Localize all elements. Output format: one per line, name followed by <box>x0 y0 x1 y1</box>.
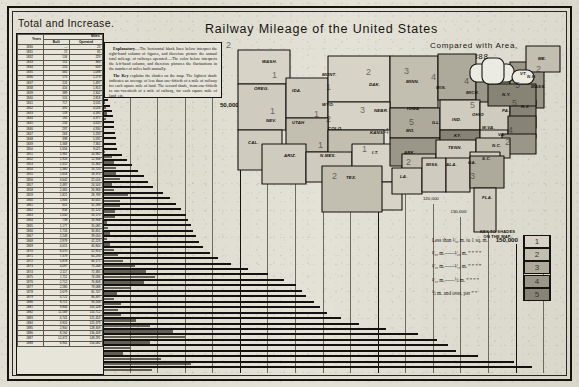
bar-miles-operated <box>102 241 199 243</box>
bar-miles-built <box>102 330 173 332</box>
gridline <box>212 96 213 374</box>
map-state-label: IND. <box>452 117 461 122</box>
map-state-shade-number: 2 <box>332 171 337 181</box>
table-body: 1830—23183172951832134229183315138018342… <box>18 45 103 346</box>
table-cell-built: 6,941 <box>43 341 69 346</box>
map-state-label: LA. <box>400 174 408 179</box>
map-state-shade-number: 4 <box>384 126 389 136</box>
bar-miles-built <box>102 336 185 338</box>
map-state-shape <box>238 50 290 84</box>
bar-miles-operated <box>102 290 302 292</box>
map-state-label: N.MEX. <box>320 153 336 158</box>
atlas-plate: Railway Mileage of the United States Com… <box>0 0 579 387</box>
map-state-label: NEBR. <box>374 108 388 113</box>
bar-miles-operated <box>102 306 320 308</box>
map-state-shade-number: 1 <box>318 140 323 150</box>
key-row-label: ¹⁄₅₀ m.——¹⁄₂₀ m. ” ” ” ” <box>432 250 522 256</box>
bar-miles-built <box>102 292 117 294</box>
bar-miles-built <box>102 314 121 316</box>
map-state-label: ME. <box>538 56 546 61</box>
table-cell-operated: 156,082 <box>69 341 102 346</box>
map-state-label: CAL. <box>248 140 259 145</box>
map-state-label: IOWA <box>407 106 419 111</box>
map-state-label: PA. <box>502 108 509 113</box>
map-state-label: N.H. <box>527 74 536 79</box>
bar-miles-operated <box>102 295 306 297</box>
bar-miles-operated <box>102 246 203 248</box>
map-state-shade-number: 3 <box>404 66 409 76</box>
map-state-shade-number: 2 <box>505 137 510 147</box>
mileage-table: Years Miles. Built Operated 1830—2318317… <box>16 33 104 375</box>
map-state-label: WYO. <box>322 102 334 107</box>
us-choropleth-map: WASH.1OREG.IDA.MONT.1DAK.2MINN.3WIS.4MIC… <box>226 40 564 245</box>
bar-miles-operated <box>102 350 456 352</box>
map-state-shade-number: 3 <box>470 171 475 181</box>
bar-miles-built <box>102 287 131 289</box>
bar-miles-built <box>102 194 128 196</box>
map-state-shape <box>328 56 390 102</box>
map-state-shape <box>262 144 306 184</box>
bar-miles-built <box>102 260 123 262</box>
bar-miles-built <box>102 341 150 343</box>
bar-miles-built <box>102 352 123 354</box>
explanatory-paragraph-1: Explanatory.—The horizontal black lines … <box>109 46 217 71</box>
bar-miles-operated <box>102 224 191 226</box>
map-state-label: NEV. <box>266 118 276 123</box>
map-state-label: COLO. <box>328 126 343 131</box>
map-state-shade-number: 1 <box>272 70 277 80</box>
map-state-shade-number: 4 <box>464 76 469 86</box>
map-state-label: UTAH <box>292 120 304 125</box>
map-state-shade-number: 2 <box>226 40 231 50</box>
map-state-label: MASS. <box>531 84 546 89</box>
key-row-label: ½ m. and over, per ” ” <box>432 290 522 296</box>
table-head: Years Miles. Built Operated <box>18 35 103 45</box>
bar-miles-built <box>102 205 120 207</box>
map-state-label: MONT. <box>322 72 337 77</box>
map-state-label: KANS. <box>370 130 384 135</box>
bar-miles-built <box>102 303 121 305</box>
bar-miles-built <box>102 254 118 256</box>
map-state-label: ALA. <box>446 162 457 167</box>
bar-miles-built <box>102 325 150 327</box>
bar-miles-operated <box>102 317 341 319</box>
map-state-label: TENN. <box>448 145 462 150</box>
map-state-shade-number: 2 <box>366 67 371 77</box>
map-state-label: DAK. <box>369 82 380 87</box>
bar-miles-operated <box>102 219 188 221</box>
great-lakes-shape <box>482 58 504 84</box>
map-state-label: ARIZ. <box>284 153 296 158</box>
bar-miles-built <box>102 265 135 267</box>
map-state-label: ILL. <box>432 120 440 125</box>
map-state-shade-number: 1 <box>314 109 319 119</box>
map-state-label: IDA. <box>292 88 301 93</box>
map-state-shade-number: 2 <box>326 114 331 124</box>
bar-miles-operated <box>102 344 448 346</box>
bar-miles-built <box>102 281 144 283</box>
map-state-shape <box>286 78 328 118</box>
map-state-label: FLA. <box>482 195 492 200</box>
bar-miles-built <box>102 319 136 321</box>
map-key: KEY TO SHADES ON THE MAP. Less than ¹⁄₅₀… <box>432 235 560 317</box>
bar-miles-built <box>102 172 116 174</box>
bar-miles-built <box>102 347 130 349</box>
map-state-label: TEX. <box>346 175 356 180</box>
bar-miles-built <box>102 363 191 365</box>
bar-miles-operated <box>102 143 116 145</box>
map-state-shade-number: 2 <box>536 64 541 74</box>
bar-miles-built <box>102 270 146 272</box>
map-state-shape <box>322 166 382 212</box>
map-state-shape <box>392 168 422 194</box>
bar-miles-built <box>102 309 118 311</box>
map-state-label: N.C. <box>492 143 501 148</box>
bar-miles-built <box>102 178 120 180</box>
map-state-shade-number: 5 <box>470 100 475 110</box>
explanatory-paragraph-2: The Key explains the shades on the map. … <box>109 73 217 98</box>
th-years: Years <box>18 35 44 45</box>
bar-miles-operated <box>102 230 193 232</box>
key-swatch-frame <box>523 235 551 301</box>
map-state-label: WIS. <box>436 85 446 90</box>
map-state-shade-number: 1 <box>362 144 367 154</box>
map-state-label: N.Y. <box>502 92 511 97</box>
map-state-shade-number: 5 <box>409 117 414 127</box>
map-state-label: OHIO <box>472 112 484 117</box>
